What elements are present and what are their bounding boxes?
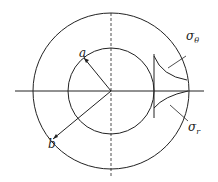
radius-b-arrow xyxy=(53,91,111,139)
radial-stress-leader xyxy=(170,105,188,121)
radius-a-arrow xyxy=(84,58,111,91)
label-sigma-r: σr xyxy=(188,121,200,136)
cylinder-diagram xyxy=(0,0,218,182)
sigma-theta-subscript: θ xyxy=(194,36,199,45)
sigma-theta-symbol: σ xyxy=(186,29,194,43)
label-b: b xyxy=(48,138,56,150)
sigma-r-subscript: r xyxy=(196,127,200,136)
label-a: a xyxy=(79,47,86,59)
label-sigma-theta: σθ xyxy=(186,30,199,45)
sigma-r-symbol: σ xyxy=(188,120,196,134)
